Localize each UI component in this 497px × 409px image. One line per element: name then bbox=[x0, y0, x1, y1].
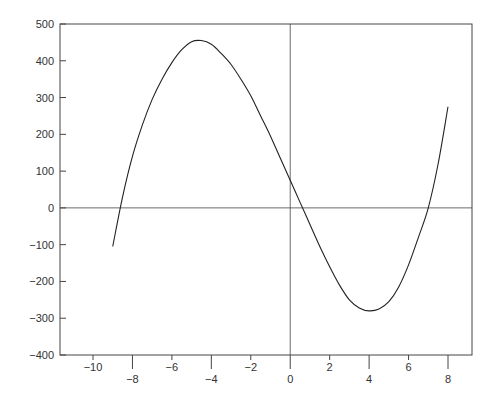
y-tick-label: −100 bbox=[29, 239, 54, 251]
y-tick-label: −400 bbox=[29, 349, 54, 361]
y-tick-label: 500 bbox=[36, 18, 54, 30]
y-tick-label: 100 bbox=[36, 165, 54, 177]
y-tick-label: 400 bbox=[36, 55, 54, 67]
x-tick-label: −4 bbox=[205, 373, 218, 385]
plot-frame bbox=[60, 24, 472, 355]
y-tick-label: −200 bbox=[29, 275, 54, 287]
y-tick-label: 300 bbox=[36, 92, 54, 104]
x-tick-label: 4 bbox=[366, 373, 372, 385]
x-tick-label: −10 bbox=[84, 361, 103, 373]
x-tick-label: −8 bbox=[126, 373, 139, 385]
plot-border bbox=[60, 24, 472, 355]
x-tick-label: −2 bbox=[245, 361, 258, 373]
x-tick-label: 8 bbox=[445, 373, 451, 385]
y-tick-label: 0 bbox=[48, 202, 54, 214]
y-tick-label: 200 bbox=[36, 128, 54, 140]
x-tick-label: 0 bbox=[287, 373, 293, 385]
x-tick-label: 6 bbox=[405, 361, 411, 373]
y-tick-label: −300 bbox=[29, 312, 54, 324]
x-tick-label: −6 bbox=[166, 361, 179, 373]
reference-lines bbox=[60, 24, 472, 355]
chart-canvas: 5004003002001000−100−200−300−400 −10−6−2… bbox=[0, 0, 497, 409]
data-curve bbox=[113, 40, 448, 311]
x-tick-label: 2 bbox=[327, 361, 333, 373]
x-axis-ticks: −10−6−226−8−4048 bbox=[84, 355, 451, 385]
